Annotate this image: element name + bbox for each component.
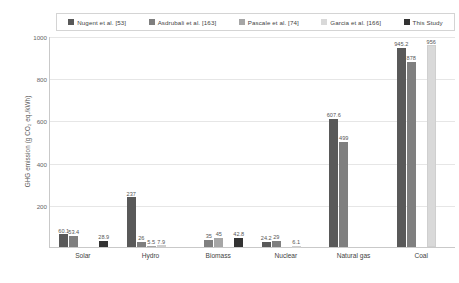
- bar-groups: 60.153.428.9237265.57.9354542.824.2296.1…: [50, 37, 455, 247]
- bar-group: 945.2878956: [388, 37, 456, 247]
- bar-value-label: 24.2: [261, 235, 272, 241]
- legend-swatch-icon: [68, 19, 74, 25]
- bar-group: 354542.8: [185, 37, 253, 247]
- y-axis-tick-label: 1000: [33, 34, 47, 41]
- bar-fill: [147, 246, 156, 247]
- bar-fill: [137, 242, 146, 247]
- bar[interactable]: 60.1: [59, 234, 68, 247]
- legend-item[interactable]: Pascale et al. [74]: [239, 19, 299, 26]
- bar[interactable]: 24.2: [262, 242, 271, 247]
- y-axis-title: GHG emission (g CO₂ eq./kWh): [24, 72, 31, 212]
- bar[interactable]: 42.8: [234, 238, 243, 247]
- bar-value-label: 237: [127, 191, 136, 197]
- x-axis-label: Biomass: [184, 252, 252, 259]
- legend-swatch-icon: [149, 19, 155, 25]
- legend-label: Asdrubali et al. [163]: [158, 19, 217, 26]
- bar-value-label: 7.9: [157, 239, 165, 245]
- legend-swatch-icon: [404, 19, 410, 25]
- x-axis-label: Solar: [49, 252, 117, 259]
- legend-item[interactable]: Nugent et al. [53]: [68, 19, 126, 26]
- bar-fill: [234, 238, 243, 247]
- bar[interactable]: 499: [339, 142, 348, 247]
- legend-label: Garcia et al. [166]: [330, 19, 381, 26]
- bar-value-label: 607.6: [327, 112, 341, 118]
- bar-fill: [292, 246, 301, 248]
- bar-fill: [262, 242, 271, 247]
- x-axis-label: Coal: [387, 252, 455, 259]
- bar-value-label: 5.5: [147, 239, 155, 245]
- bar-fill: [214, 238, 223, 247]
- bar-value-label: 28.9: [98, 234, 109, 240]
- bar[interactable]: 28.9: [99, 241, 108, 247]
- bar-value-label: 35: [206, 233, 212, 239]
- bar[interactable]: 945.2: [397, 48, 406, 247]
- plot-area: 02004006008001000 60.153.428.9237265.57.…: [49, 37, 455, 248]
- bar-value-label: 29: [273, 234, 279, 240]
- bar[interactable]: 29: [272, 241, 281, 247]
- bar-value-label: 6.1: [292, 239, 300, 245]
- bar[interactable]: 7.9: [157, 245, 166, 247]
- bar-fill: [272, 241, 281, 247]
- chart-container: Nugent et al. [53]Asdrubali et al. [163]…: [0, 0, 459, 283]
- legend-label: This Study: [413, 19, 443, 26]
- legend-swatch-icon: [321, 19, 327, 25]
- bar-fill: [407, 62, 416, 247]
- bar-fill: [157, 245, 166, 247]
- bar-group: 237265.57.9: [118, 37, 186, 247]
- y-axis-tick-label: 800: [37, 76, 47, 83]
- bar-value-label: 956: [427, 39, 436, 45]
- x-axis-labels: SolarHydroBiomassNuclearNatural gasCoal: [49, 252, 455, 259]
- bar-group: 607.6499: [320, 37, 388, 247]
- bar-value-label: 499: [339, 135, 348, 141]
- bar-fill: [69, 236, 78, 247]
- chart-legend: Nugent et al. [53]Asdrubali et al. [163]…: [56, 13, 455, 31]
- legend-item[interactable]: Garcia et al. [166]: [321, 19, 381, 26]
- bar-fill: [127, 197, 136, 247]
- bar-fill: [204, 240, 213, 247]
- bar-value-label: 26: [138, 235, 144, 241]
- legend-item[interactable]: This Study: [404, 19, 443, 26]
- y-axis-tick-label: 200: [37, 202, 47, 209]
- bar-fill: [59, 234, 68, 247]
- bar-fill: [339, 142, 348, 247]
- legend-item[interactable]: Asdrubali et al. [163]: [149, 19, 217, 26]
- bar-value-label: 878: [407, 55, 416, 61]
- bar-value-label: 42.8: [233, 231, 244, 237]
- y-axis-tick-label: 600: [37, 118, 47, 125]
- x-axis-label: Nuclear: [252, 252, 320, 259]
- bar[interactable]: 956: [427, 45, 436, 247]
- x-axis-label: Hydro: [117, 252, 185, 259]
- legend-label: Pascale et al. [74]: [248, 19, 299, 26]
- bar-fill: [427, 45, 436, 247]
- y-axis-tick-label: 400: [37, 160, 47, 167]
- bar[interactable]: 5.5: [147, 246, 156, 247]
- bar[interactable]: 45: [214, 238, 223, 247]
- bar-fill: [99, 241, 108, 247]
- bar[interactable]: 53.4: [69, 236, 78, 247]
- bar-value-label: 945.2: [394, 41, 408, 47]
- legend-swatch-icon: [239, 19, 245, 25]
- bar-fill: [329, 119, 338, 247]
- bar[interactable]: 6.1: [292, 246, 301, 247]
- bar-group: 24.2296.1: [253, 37, 321, 247]
- bar[interactable]: 26: [137, 242, 146, 247]
- legend-label: Nugent et al. [53]: [77, 19, 126, 26]
- bar-value-label: 45: [216, 231, 222, 237]
- bar-group: 60.153.428.9: [50, 37, 118, 247]
- bar[interactable]: 878: [407, 62, 416, 247]
- bar-value-label: 53.4: [68, 229, 79, 235]
- bar-fill: [397, 48, 406, 247]
- bar[interactable]: 607.6: [329, 119, 338, 247]
- bar[interactable]: 35: [204, 240, 213, 247]
- x-axis-label: Natural gas: [320, 252, 388, 259]
- bar[interactable]: 237: [127, 197, 136, 247]
